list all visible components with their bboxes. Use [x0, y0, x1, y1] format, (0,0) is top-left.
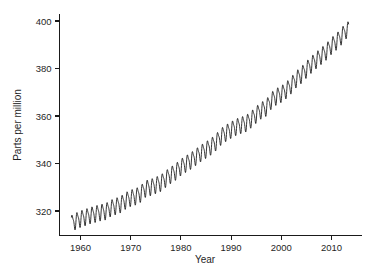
x-tick-label: 2000 [271, 242, 292, 253]
x-tick-label: 1970 [120, 242, 141, 253]
keeling-curve-chart: 320340360380400 196019701980199020002010… [0, 0, 372, 275]
x-axis-title: Year [195, 254, 216, 265]
y-tick-label: 340 [36, 158, 52, 169]
x-tick-label: 1990 [221, 242, 242, 253]
x-tick-label: 1980 [170, 242, 191, 253]
chart-figure: 320340360380400 196019701980199020002010… [0, 0, 372, 275]
chart-background [0, 0, 372, 275]
x-tick-label: 1960 [70, 242, 91, 253]
y-tick-label: 380 [36, 63, 52, 74]
y-axis-title: Parts per million [12, 89, 23, 161]
y-tick-label: 360 [36, 111, 52, 122]
x-tick-label: 2010 [321, 242, 342, 253]
y-tick-label: 320 [36, 206, 52, 217]
y-tick-label: 400 [36, 16, 52, 27]
